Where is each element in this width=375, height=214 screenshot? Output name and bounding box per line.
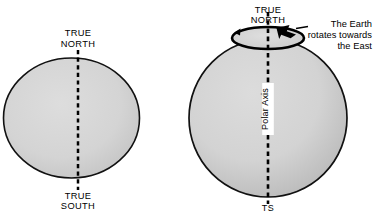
right-true-north-label-line2: NORTH [251, 15, 286, 25]
right-true-north-label-line1: TRUE [255, 5, 282, 15]
left-globe-ellipse [4, 58, 140, 178]
rotation-note-line2: rotates towards [308, 30, 373, 40]
diagram-canvas: TRUE NORTH TRUE SOUTH Polar Axis TRUE NO… [0, 0, 375, 214]
rotation-note-leader-line [296, 27, 308, 29]
left-globe-group: TRUE NORTH TRUE SOUTH [4, 28, 140, 211]
left-true-south-label-line1: TRUE [65, 191, 92, 201]
left-true-north-label-line1: TRUE [65, 28, 92, 38]
right-globe-group: Polar Axis TRUE NORTH TS The Earth rotat… [189, 5, 372, 214]
left-true-south-label-line2: SOUTH [61, 201, 95, 211]
right-true-south-abbrev-label: TS [262, 203, 275, 213]
left-true-north-label-line2: NORTH [61, 39, 96, 49]
polar-axis-label: Polar Axis [260, 88, 270, 130]
rotation-note-line1: The Earth [331, 19, 372, 29]
polar-axis-diagram: TRUE NORTH TRUE SOUTH Polar Axis TRUE NO… [0, 0, 375, 214]
rotation-note-line3: the East [337, 41, 372, 51]
